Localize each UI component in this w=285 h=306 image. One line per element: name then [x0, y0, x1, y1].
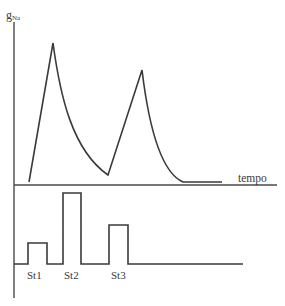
gna-curve — [29, 43, 222, 182]
y-axis-label-subscript: Na — [12, 14, 21, 22]
stimulus-trace — [14, 193, 243, 264]
stimulus-label-st2: St2 — [64, 269, 79, 281]
stimulus-label-st3: St3 — [111, 269, 126, 281]
x-axis-label: tempo — [238, 172, 267, 185]
stimulus-label-st1: St1 — [27, 269, 42, 281]
gna-stimulus-diagram: gNa tempo St1 St2 St3 — [0, 0, 285, 306]
y-axis-label: gNa — [6, 8, 21, 22]
